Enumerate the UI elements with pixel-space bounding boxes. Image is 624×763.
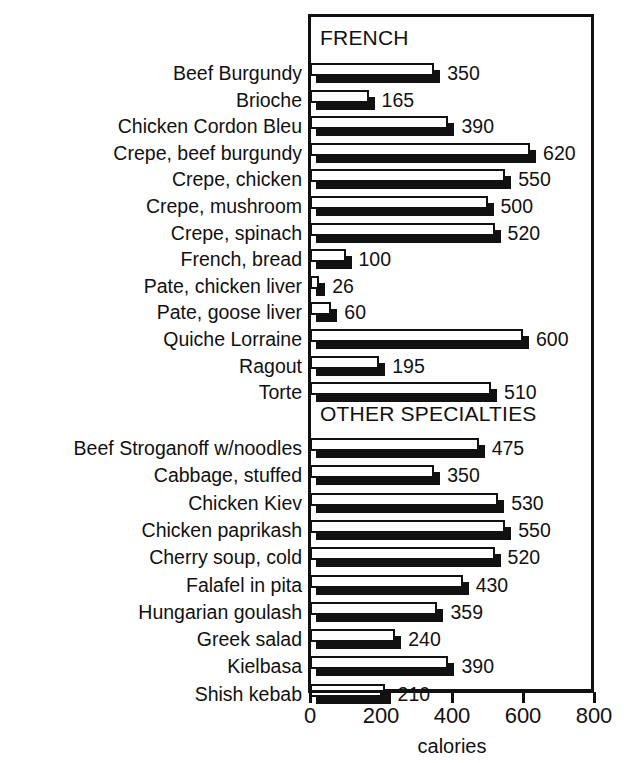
- bar-face: [310, 656, 448, 669]
- bar: [310, 629, 403, 650]
- bar-value-label: 350: [447, 64, 480, 84]
- category-label: Crepe, spinach: [0, 224, 302, 244]
- bar: [310, 169, 513, 190]
- category-label: Beef Stroganoff w/noodles: [0, 439, 302, 459]
- bar-face: [310, 169, 505, 182]
- category-label: Crepe, mushroom: [0, 197, 302, 217]
- category-label: Hungarian goulash: [0, 603, 302, 623]
- bar-value-label: 165: [382, 91, 415, 111]
- category-label: Chicken Kiev: [0, 494, 302, 514]
- bar-value-label: 240: [408, 630, 441, 650]
- bar-value-label: 620: [543, 144, 576, 164]
- bar: [310, 143, 538, 164]
- x-axis-tick: [593, 692, 596, 703]
- bar-value-label: 430: [476, 576, 509, 596]
- bar: [310, 90, 377, 111]
- bar: [310, 196, 496, 217]
- bar: [310, 63, 442, 84]
- x-axis-tick: [451, 692, 454, 703]
- x-axis-tick: [380, 692, 383, 703]
- bar: [310, 520, 513, 541]
- bar-face: [310, 465, 434, 478]
- x-axis-tick-label: 0: [304, 705, 316, 727]
- bar: [310, 249, 354, 270]
- bar-value-label: 600: [536, 330, 569, 350]
- bar-face: [310, 196, 488, 209]
- bar-value-label: 210: [398, 685, 431, 705]
- x-axis-title: calories: [310, 735, 594, 758]
- bar-face: [310, 520, 505, 533]
- bar-value-label: 520: [508, 548, 541, 568]
- category-label: Cherry soup, cold: [0, 548, 302, 568]
- section-header-other: OTHER SPECIALTIES: [320, 402, 537, 426]
- category-label: Torte: [0, 383, 302, 403]
- bar: [310, 438, 487, 459]
- bar-face: [310, 493, 498, 506]
- bar-face: [310, 223, 495, 236]
- category-label: Ragout: [0, 357, 302, 377]
- bar: [310, 547, 503, 568]
- bar: [310, 465, 442, 486]
- bar-face: [310, 63, 434, 76]
- category-label: Shish kebab: [0, 685, 302, 705]
- x-axis-tick-label: 200: [363, 705, 400, 727]
- bar: [310, 575, 471, 596]
- bar-value-label: 390: [461, 117, 494, 137]
- category-label: Kielbasa: [0, 657, 302, 677]
- category-label: Greek salad: [0, 630, 302, 650]
- bar: [310, 656, 456, 677]
- bar-face: [310, 438, 479, 451]
- category-label: Falafel in pita: [0, 576, 302, 596]
- bar-value-label: 195: [392, 357, 425, 377]
- section-header-french: FRENCH: [320, 26, 409, 50]
- bar-value-label: 350: [447, 466, 480, 486]
- bar-value-label: 60: [344, 303, 366, 323]
- category-label: Quiche Lorraine: [0, 330, 302, 350]
- bar-value-label: 530: [511, 494, 544, 514]
- category-label: Pate, goose liver: [0, 303, 302, 323]
- x-axis-tick: [309, 692, 312, 703]
- x-axis-tick: [522, 692, 525, 703]
- bar-value-label: 475: [492, 439, 525, 459]
- x-axis-tick-label: 800: [576, 705, 613, 727]
- bar-face: [310, 602, 437, 615]
- bar: [310, 356, 387, 377]
- bar-face: [310, 575, 463, 588]
- bar-value-label: 520: [508, 224, 541, 244]
- bar-face: [310, 329, 523, 342]
- bar-face: [310, 249, 346, 262]
- x-axis-tick-label: 600: [505, 705, 542, 727]
- bar-face: [310, 90, 369, 103]
- bar: [310, 382, 499, 403]
- bar-value-label: 500: [501, 197, 534, 217]
- bar: [310, 329, 531, 350]
- bar: [310, 602, 445, 623]
- chart-figure: FRENCH OTHER SPECIALTIES Beef Burgundy35…: [0, 0, 624, 763]
- category-label: Brioche: [0, 91, 302, 111]
- category-label: French, bread: [0, 250, 302, 270]
- bar-value-label: 359: [450, 603, 483, 623]
- category-label: Beef Burgundy: [0, 64, 302, 84]
- bar-face: [310, 302, 331, 315]
- bar: [310, 116, 456, 137]
- bar: [310, 493, 506, 514]
- bar: [310, 302, 339, 323]
- bar-face: [310, 547, 495, 560]
- bar-face: [310, 629, 395, 642]
- category-label: Chicken Cordon Bleu: [0, 117, 302, 137]
- bar-value-label: 550: [518, 170, 551, 190]
- bar-face: [310, 382, 491, 395]
- category-label: Cabbage, stuffed: [0, 466, 302, 486]
- bar-value-label: 100: [359, 250, 392, 270]
- bar-face: [310, 356, 379, 369]
- category-label: Chicken paprikash: [0, 521, 302, 541]
- bar-value-label: 26: [332, 277, 354, 297]
- x-axis-tick-label: 400: [434, 705, 471, 727]
- category-label: Crepe, chicken: [0, 170, 302, 190]
- bar: [310, 276, 327, 297]
- bar: [310, 223, 503, 244]
- bar-face: [310, 276, 319, 289]
- bar-value-label: 550: [518, 521, 551, 541]
- category-label: Pate, chicken liver: [0, 277, 302, 297]
- category-label: Crepe, beef burgundy: [0, 144, 302, 164]
